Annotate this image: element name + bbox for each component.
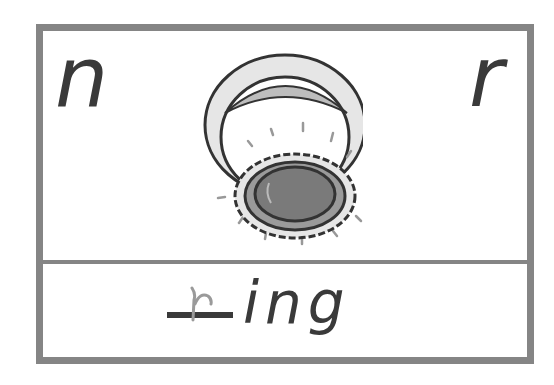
traced-letter-r-icon [188, 286, 228, 322]
choice-letter-right[interactable]: r [469, 35, 504, 119]
word-row: ing [43, 264, 527, 357]
choice-letter-left[interactable]: n [55, 35, 108, 119]
ring-icon [203, 51, 363, 251]
word-suffix: ing [243, 274, 351, 332]
phonics-card: n r ing [36, 24, 534, 364]
